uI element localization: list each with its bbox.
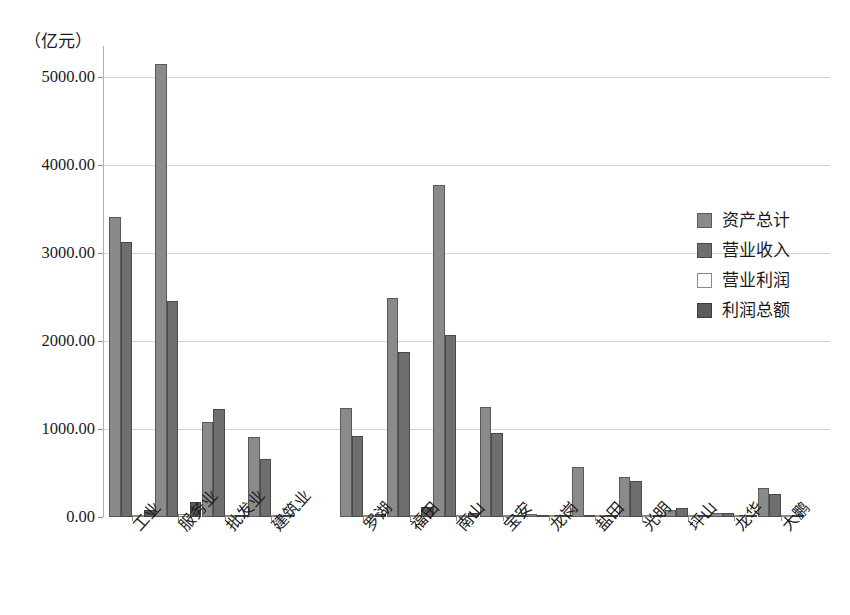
bar-宝安-营业收入 (491, 433, 503, 517)
bar-福田-资产总计 (387, 298, 399, 517)
bar-坪山-营业收入 (676, 508, 688, 517)
legend-item-营业利润: 营业利润 (697, 265, 845, 295)
bar-工业-营业收入 (121, 242, 133, 517)
y-axis-tick-label: 1000.00 (3, 421, 95, 438)
y-axis-tick-label: 5000.00 (3, 69, 95, 86)
bar-罗湖-营业收入 (352, 436, 364, 517)
legend-label: 资产总计 (722, 211, 790, 229)
bar-工业-资产总计 (109, 217, 121, 517)
x-axis-labels: 工业服务业批发业建筑业罗湖福田南山宝安龙岗盐田光明坪山龙华大鹏 (103, 517, 830, 615)
bar-南山-营业收入 (445, 335, 457, 517)
legend-swatch-icon (697, 273, 712, 288)
y-axis-tick-label: 3000.00 (3, 245, 95, 262)
bar-服务业-营业收入 (167, 301, 179, 517)
legend-swatch-icon (697, 213, 712, 228)
bar-罗湖-资产总计 (340, 408, 352, 517)
legend-item-资产总计: 资产总计 (697, 205, 845, 235)
y-axis-tick-label: 0.00 (3, 509, 95, 526)
legend-swatch-icon (697, 243, 712, 258)
bar-建筑业-营业收入 (260, 459, 272, 517)
bar-福田-营业收入 (398, 352, 410, 517)
bar-服务业-资产总计 (155, 64, 167, 517)
bar-宝安-资产总计 (480, 407, 492, 517)
y-axis-tick-label: 4000.00 (3, 157, 95, 174)
y-axis-tick-label: 2000.00 (3, 333, 95, 350)
chart-legend: 资产总计营业收入营业利润利润总额 (697, 205, 845, 325)
legend-label: 营业利润 (722, 271, 790, 289)
legend-label: 营业收入 (722, 241, 790, 259)
legend-label: 利润总额 (722, 301, 790, 319)
bar-chart: （亿元） 0.001000.002000.003000.004000.00500… (0, 0, 850, 615)
y-axis-unit-label: （亿元） (24, 27, 92, 52)
bar-大鹏-营业收入 (769, 494, 781, 517)
bar-南山-资产总计 (433, 185, 445, 517)
legend-item-营业收入: 营业收入 (697, 235, 845, 265)
legend-item-利润总额: 利润总额 (697, 295, 845, 325)
bar-光明-营业收入 (630, 481, 642, 517)
legend-swatch-icon (697, 303, 712, 318)
